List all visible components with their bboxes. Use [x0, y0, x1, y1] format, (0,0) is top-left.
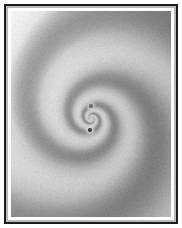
spiral-field-plot: [11, 11, 171, 217]
figure-root: [0, 0, 182, 228]
spiral-field-canvas: [11, 11, 171, 217]
plate-inner-bevel: [8, 8, 174, 220]
plate-frame: [4, 4, 178, 224]
